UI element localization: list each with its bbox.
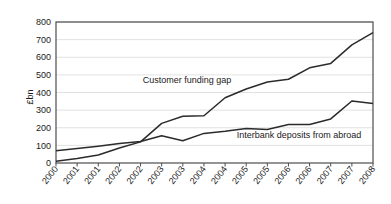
y-axis-label: £bn — [25, 89, 35, 104]
x-tick-label: 2006 — [272, 164, 292, 186]
y-tick-label: 100 — [36, 141, 51, 151]
chart-figure: 0100200300400500600700800 20002001200120… — [0, 0, 391, 204]
line-chart: 0100200300400500600700800 20002001200120… — [0, 0, 391, 204]
x-tick-label: 2005 — [251, 164, 271, 186]
series-annotation: Customer funding gap — [143, 75, 232, 85]
y-tick-label: 400 — [36, 88, 51, 98]
y-tick-label: 600 — [36, 52, 51, 62]
x-tick-label: 2004 — [209, 164, 229, 186]
series-annotations: Customer funding gapInterbank deposits f… — [143, 75, 362, 140]
y-axis-tick-labels: 0100200300400500600700800 — [36, 17, 51, 168]
series-annotation: Interbank deposits from abroad — [237, 130, 362, 140]
x-tick-label: 2002 — [103, 164, 123, 186]
series-line — [56, 33, 373, 162]
series-line — [56, 101, 373, 151]
x-tick-label: 2008 — [357, 164, 377, 186]
x-tick-label: 2001 — [61, 164, 81, 186]
x-tick-label: 2000 — [40, 164, 60, 186]
y-tick-label: 300 — [36, 105, 51, 115]
x-tick-label: 2005 — [230, 164, 250, 186]
y-tick-label: 200 — [36, 123, 51, 133]
x-tick-label: 2004 — [188, 164, 208, 186]
x-tick-label: 2002 — [124, 164, 144, 186]
x-tick-label: 2003 — [167, 164, 187, 186]
x-axis-tick-labels: 2000200120012002200220032003200420042005… — [40, 164, 377, 186]
data-series-lines — [56, 33, 373, 162]
x-tick-label: 2007 — [315, 164, 335, 186]
x-tick-label: 2007 — [336, 164, 356, 186]
y-tick-label: 700 — [36, 35, 51, 45]
x-tick-label: 2001 — [82, 164, 102, 186]
y-tick-label: 500 — [36, 70, 51, 80]
y-tick-label: 800 — [36, 17, 51, 27]
x-tick-label: 2003 — [146, 164, 166, 186]
x-tick-label: 2006 — [293, 164, 313, 186]
